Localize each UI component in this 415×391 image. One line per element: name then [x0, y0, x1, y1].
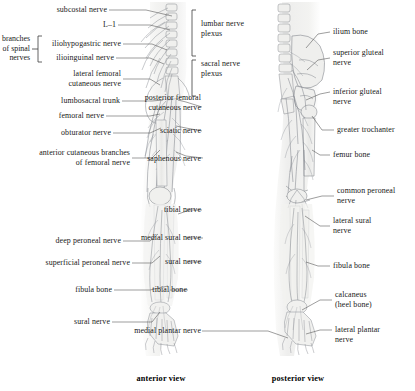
label-superior-gluteal-nerve: superior gluteal nerve — [333, 48, 413, 67]
label-sural-nerve-left: sural nerve — [0, 317, 110, 327]
label-superficial-peroneal-nerve: superficial peroneal nerve — [0, 258, 130, 268]
label-deep-peroneal-nerve: deep peroneal nerve — [0, 236, 121, 246]
label-sciatic-nerve: sciatic nerve — [133, 126, 201, 136]
leader-lines-right — [302, 32, 334, 334]
label-femoral-nerve: femoral nerve — [0, 111, 104, 121]
label-iliohypogastric-nerve: iliohypogastric nerve — [0, 39, 121, 49]
label-femur-bone: femur bone — [333, 150, 413, 160]
anterior-figure — [140, 2, 190, 356]
label-fibula-bone-right: fibula bone — [333, 261, 413, 271]
caption-posterior-view: posterior view — [253, 374, 343, 383]
label-sural-nerve-center: sural nerve — [133, 257, 201, 267]
label-ilium-bone: ilium bone — [333, 27, 413, 37]
label-saphenous-nerve: saphenous nerve — [126, 154, 201, 164]
label-tibial-nerve: tibial nerve — [133, 205, 201, 215]
anatomy-figure: branches of spinal nerves subcostal nerv… — [0, 0, 415, 391]
label-lumbar-nerve-plexus: lumbar nerve plexus — [201, 19, 263, 38]
label-lateral-plantar-nerve: lateral plantar nerve — [335, 325, 415, 344]
label-lumbosacral-trunk: lumbosacral trunk — [0, 96, 120, 106]
caption-anterior-view: anterior view — [118, 374, 204, 383]
label-lateral-femoral-cutaneous-nerve: lateral femoral cutaneous nerve — [0, 69, 121, 88]
posterior-figure — [274, 2, 325, 356]
label-posterior-femoral-cutaneous-nerve: posterior femoral cutaneous nerve — [133, 93, 201, 112]
label-common-peroneal-nerve: common peroneal nerve — [337, 186, 415, 205]
bracket-plexus — [192, 10, 196, 96]
label-subcostal-nerve: subcostal nerve — [0, 5, 107, 15]
label-fibula-bone-left: fibula bone — [0, 285, 112, 295]
label-inferior-gluteal-nerve: inferior gluteal nerve — [333, 87, 413, 106]
label-medial-sural-nerve: medial sural nerve — [120, 233, 201, 243]
label-lateral-sural-nerve: lateral sural nerve — [333, 216, 413, 235]
label-anterior-cutaneous-branches-of-femoral-nerve: anterior cutaneous branches of femoral n… — [0, 148, 130, 167]
label-medial-plantar-nerve: medial plantar nerve — [111, 326, 201, 336]
label-ilioinguinal-nerve: ilioinguinal nerve — [0, 53, 114, 63]
label-greater-trochanter: greater trochanter — [337, 125, 415, 135]
label-l-1: L–1 — [0, 20, 116, 30]
label-calcaneus: calcaneus (heel bone) — [335, 290, 415, 309]
label-sacral-nerve-plexus: sacral nerve plexus — [201, 59, 263, 78]
label-obturator-nerve: obturator nerve — [0, 128, 111, 138]
leader-lines-center — [170, 100, 288, 338]
label-tibial-bone: tibial bone — [120, 285, 187, 295]
